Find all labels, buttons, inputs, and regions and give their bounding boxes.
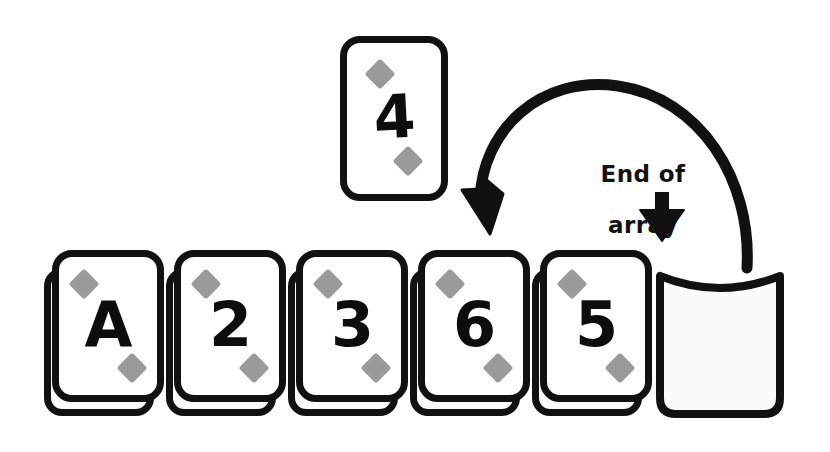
diagram-canvas: A 2 3 6 5 4 bbox=[0, 0, 830, 452]
end-of-array-label-line2: array bbox=[578, 213, 708, 239]
end-of-array-label: End of array bbox=[578, 136, 708, 265]
end-of-array-label-line1: End of bbox=[578, 162, 708, 188]
